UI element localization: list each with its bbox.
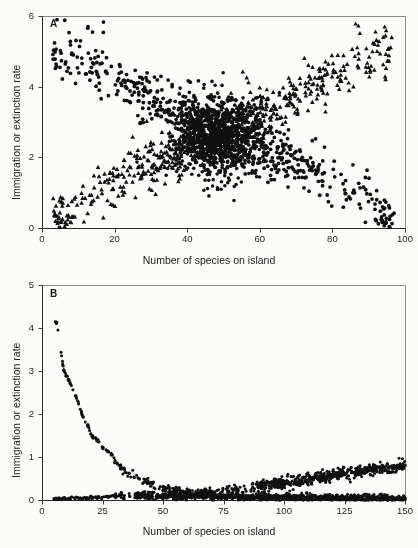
panel-b-x-tick-75: 75	[204, 505, 244, 516]
panel-b-x-axis-title: Number of species on island	[0, 525, 418, 537]
panel-b-x-tick-125: 125	[325, 505, 365, 516]
panel-b-x-tick-0: 0	[22, 505, 62, 516]
panel-a-x-tick-0: 0	[22, 233, 62, 244]
panel-a: A Number of species on island Immigratio…	[0, 0, 418, 274]
panel-a-x-axis-title: Number of species on island	[0, 254, 418, 266]
panel-a-y-tick-2: 2	[4, 151, 34, 162]
panel-a-scatter-plot	[0, 0, 418, 274]
panel-b: B 0255075100125150012345	[0, 274, 418, 548]
panel-a-y-tick-6: 6	[4, 10, 34, 21]
panel-b-label: B	[50, 288, 57, 299]
figure-container: A Number of species on island Immigratio…	[0, 0, 418, 548]
panel-a-x-tick-60: 60	[240, 233, 280, 244]
panel-b-y-tick-0: 0	[4, 494, 34, 505]
panel-a-x-tick-100: 100	[385, 233, 418, 244]
panel-b-y-axis-title: Immigration or extinction rate	[10, 343, 22, 478]
panel-a-label: A	[50, 18, 57, 29]
panel-b-x-tick-25: 25	[83, 505, 123, 516]
panel-a-y-tick-4: 4	[4, 81, 34, 92]
panel-a-x-tick-20: 20	[95, 233, 135, 244]
panel-b-y-tick-4: 4	[4, 322, 34, 333]
panel-b-x-tick-150: 150	[385, 505, 418, 516]
panel-b-x-tick-50: 50	[143, 505, 183, 516]
panel-a-x-tick-40: 40	[167, 233, 207, 244]
panel-b-y-tick-5: 5	[4, 279, 34, 290]
panel-b-x-tick-100: 100	[264, 505, 304, 516]
panel-a-y-tick-0: 0	[4, 222, 34, 233]
panel-a-x-tick-80: 80	[312, 233, 352, 244]
